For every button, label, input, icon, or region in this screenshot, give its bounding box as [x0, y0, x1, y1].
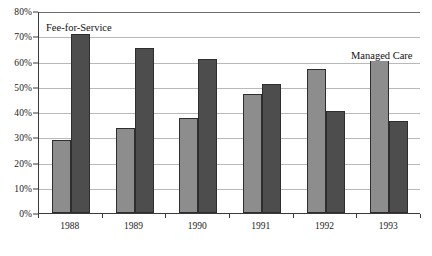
bar-fee-for-service-1992: [307, 69, 326, 213]
y-axis: 0%10%20%30%40%50%60%70%80%: [0, 12, 38, 214]
x-axis-tick-label: 1990: [188, 221, 207, 231]
bar-fee-for-service-1990: [179, 118, 198, 213]
bar-fee-for-service-1988: [52, 140, 71, 213]
bar-group: [307, 12, 345, 213]
y-axis-tick-label: 30%: [14, 133, 32, 143]
figure-container: 0%10%20%30%40%50%60%70%80% 1988198919901…: [0, 0, 432, 256]
bar-managed-care-1992: [326, 111, 345, 213]
x-axis-tick-label: 1989: [124, 221, 143, 231]
series-label-managed-care: Managed Care: [349, 50, 415, 61]
bar-fee-for-service-1993: [370, 60, 389, 213]
bar-group: [370, 12, 408, 213]
y-axis-tick-label: 10%: [14, 184, 32, 194]
bar-groups: [39, 12, 420, 213]
x-axis: 198819891990199119921993: [38, 214, 420, 240]
x-axis-tick-mark: [38, 214, 39, 218]
y-axis-tick-label: 50%: [14, 83, 32, 93]
y-axis-tick-label: 60%: [14, 58, 32, 68]
series-label-fee-for-service: Fee-for-Service: [44, 22, 114, 33]
y-axis-tick-label: 20%: [14, 159, 32, 169]
y-axis-tick-label: 80%: [14, 7, 32, 17]
x-axis-tick-mark: [165, 214, 166, 218]
y-axis-tick-label: 0%: [19, 209, 32, 219]
x-axis-tick-label: 1993: [379, 221, 398, 231]
bar-managed-care-1990: [198, 59, 217, 213]
bar-group: [179, 12, 217, 213]
bar-group: [243, 12, 281, 213]
y-axis-tick-label: 70%: [14, 32, 32, 42]
bar-group: [52, 12, 90, 213]
x-axis-tick-label: 1992: [315, 221, 334, 231]
x-axis-tick-label: 1991: [251, 221, 270, 231]
y-axis-tick-label: 40%: [14, 108, 32, 118]
bar-group: [116, 12, 154, 213]
bar-managed-care-1993: [389, 121, 408, 213]
bar-managed-care-1988: [71, 34, 90, 213]
x-axis-tick-mark: [420, 214, 421, 218]
caption-sliver: [6, 246, 426, 256]
x-axis-tick-mark: [229, 214, 230, 218]
bar-fee-for-service-1989: [116, 128, 135, 213]
bar-fee-for-service-1991: [243, 94, 262, 213]
bar-managed-care-1989: [135, 48, 154, 213]
x-axis-tick-mark: [102, 214, 103, 218]
bar-managed-care-1991: [262, 84, 281, 213]
x-axis-tick-label: 1988: [60, 221, 79, 231]
x-axis-tick-mark: [356, 214, 357, 218]
plot-area: [38, 12, 420, 214]
x-axis-tick-mark: [293, 214, 294, 218]
